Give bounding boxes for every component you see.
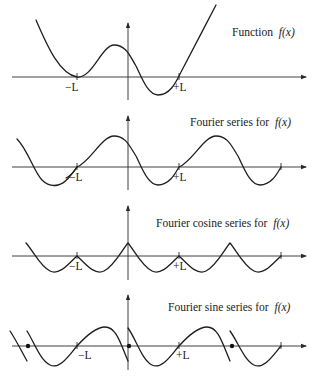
panel-function: −L +L Function f(x): [12, 5, 306, 100]
panel-fourier-sine-series: −L +L Fourier sine series for f(x): [10, 295, 306, 370]
fourier-series-curve: [17, 136, 281, 185]
panel-fourier-cosine-series: −L +L Fourier cosine series for f(x): [12, 206, 306, 280]
label-plus-l: +L: [173, 171, 187, 183]
label-plus-l: +L: [176, 349, 190, 361]
midpoint-dot-plus-2l: [230, 344, 234, 348]
fourier-cosine-series-curve: [26, 243, 281, 272]
panel-title-fourier-sine-series: Fourier sine series for f(x): [168, 301, 291, 314]
panel-fourier-series: −L +L Fourier series for f(x): [12, 116, 306, 190]
function-curve: [36, 5, 216, 95]
fourier-sine-series-branch-3: [230, 331, 281, 366]
label-minus-l: −L: [65, 81, 79, 93]
panel-title-function: Function f(x): [232, 26, 295, 39]
label-minus-l: −L: [69, 171, 83, 183]
label-plus-l: +L: [173, 260, 187, 272]
label-plus-l: +L: [173, 81, 187, 93]
midpoint-dot-minus-2l: [26, 344, 30, 348]
panel-title-fourier-cosine-series: Fourier cosine series for f(x): [156, 217, 289, 230]
fourier-diagram: −L +L Function f(x) −L +L Fourier series…: [0, 0, 313, 379]
label-minus-l: −L: [69, 260, 83, 272]
panel-title-fourier-series: Fourier series for f(x): [190, 116, 291, 129]
midpoint-dot-origin: [127, 344, 131, 348]
label-minus-l: −L: [78, 349, 92, 361]
